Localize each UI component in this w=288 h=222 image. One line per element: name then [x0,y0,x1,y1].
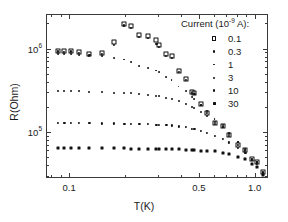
y-tick-minor [46,92,49,93]
data-point-30 [157,147,160,150]
y-tick-right [265,176,268,177]
legend-label: 0.1 [228,33,241,44]
data-point-3 [244,149,246,151]
x-tick-minor [214,175,215,178]
data-point-10 [244,152,246,154]
data-point-1 [57,53,59,55]
data-point-30 [130,147,133,150]
data-point-3 [200,111,202,113]
data-point-30 [205,149,208,152]
data-point-1 [70,53,72,55]
x-tick-major [69,173,70,178]
data-point-1 [101,55,103,57]
data-point-10 [101,122,103,124]
data-point-10 [213,135,215,137]
y-tick-minor [46,150,49,151]
legend-marker-icon [207,102,221,105]
data-point-1 [78,54,80,56]
data-point-10 [113,122,115,124]
x-tick-minor [181,175,182,178]
y-tick-major [46,49,51,50]
y-tick-right [263,132,268,133]
y-tick-minor [46,136,49,137]
data-point-3 [158,95,160,97]
legend-item-10[interactable]: 10 [207,84,285,97]
data-point-10 [147,123,149,125]
y-tick-minor [46,67,49,68]
data-point-30 [236,155,239,158]
legend-label: 1 [228,59,233,70]
x-tick-top [61,14,62,17]
data-point-30 [165,148,168,151]
data-point-10 [193,128,195,130]
x-tick-top [214,14,215,17]
data-point-3 [70,90,72,92]
data-point-30 [147,147,150,150]
legend-title-exponent: -9 [229,17,235,24]
y-tick-right [265,157,268,158]
x-tick-top [51,14,52,17]
data-point-1 [88,55,90,57]
figure-container: 0.10.51.0 106105 T(K) R(Ohm) Current (10… [0,0,288,222]
x-tick-top [246,14,247,17]
data-point-3 [237,141,239,143]
x-tick-label: 1.0 [248,182,261,193]
x-tick-top [237,14,238,17]
data-point-3 [228,133,230,135]
data-point-1 [130,62,132,64]
x-tick-top [69,14,70,19]
data-point-3 [57,90,59,92]
legend-item-0p3[interactable]: 0.3 [207,45,285,58]
y-tick-minor [46,145,49,146]
data-point-30 [199,149,202,152]
legend-item-0p1[interactable]: 0.1 [207,32,285,45]
data-point-10 [222,138,224,140]
data-point-3 [147,94,149,96]
data-point-10 [177,125,179,127]
data-point-30 [88,146,91,149]
x-tick-top [125,14,126,17]
data-point-30 [184,148,187,151]
data-point-30 [221,151,224,154]
data-point-10 [138,123,140,125]
y-tick-right [265,145,268,146]
data-point-30 [57,146,60,149]
data-point-10 [206,132,208,134]
data-point-10 [237,147,239,149]
data-point-3 [123,92,125,94]
legend: Current (10-9 A): 0.10.3131030 [181,18,285,110]
x-tick-label: 0.5 [192,182,205,193]
legend-marker-icon [207,89,221,91]
data-point-30 [138,147,141,150]
data-point-10 [88,122,90,124]
data-point-3 [214,121,216,123]
data-point-1 [165,76,167,78]
legend-item-3[interactable]: 3 [207,71,285,84]
data-point-3 [88,91,90,93]
data-point-10 [78,122,80,124]
y-tick-minor [46,82,49,83]
data-point-10 [165,124,167,126]
legend-item-1[interactable]: 1 [207,58,285,71]
legend-label: 30 [228,98,239,109]
data-point-30 [100,147,103,150]
y-tick-minor [46,140,49,141]
data-point-30 [193,149,196,152]
legend-item-30[interactable]: 30 [207,97,285,110]
x-tick-label: 0.1 [63,182,76,193]
y-tick-minor [46,52,49,53]
data-point-10 [185,126,187,128]
y-tick-minor [46,57,49,58]
data-point-30 [228,152,231,155]
x-tick-top [226,14,227,17]
x-tick-minor [51,175,52,178]
x-tick-major [255,173,256,178]
y-tick-minor [46,165,49,166]
y-tick-minor [46,74,49,75]
data-point-3 [178,100,180,102]
x-tick-minor [61,175,62,178]
legend-marker-icon [207,36,221,40]
data-point-10 [200,130,202,132]
y-tick-right [265,136,268,137]
data-point-0p3 [123,24,125,26]
